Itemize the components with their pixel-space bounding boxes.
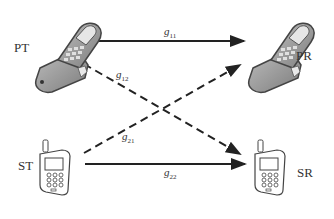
node-label-sr: SR [297, 165, 313, 181]
node-label-st: ST [18, 158, 33, 174]
edge-label-g11: g11 [164, 25, 176, 40]
edge-label-g21: g21 [122, 130, 135, 145]
edge-label-subscript: 11 [170, 32, 177, 40]
node-label-pt: PT [14, 40, 29, 56]
phone-sr-icon [255, 140, 285, 195]
phone-pt-icon [36, 23, 101, 92]
edge-label-g12: g12 [116, 68, 129, 83]
edge-label-subscript: 12 [122, 75, 129, 83]
edge-label-subscript: 22 [170, 173, 177, 181]
node-label-pr: PR [296, 48, 312, 64]
edge-label-subscript: 21 [128, 137, 135, 145]
phone-st-icon [40, 140, 70, 195]
edge-label-g22: g22 [164, 166, 177, 181]
